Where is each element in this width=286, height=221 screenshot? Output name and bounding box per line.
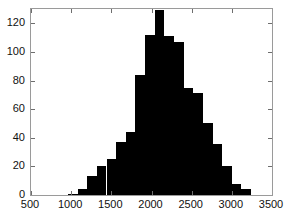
histogram-bar [87, 176, 97, 195]
histogram-bar [232, 184, 242, 195]
x-axis-tick-label: 3000 [219, 198, 243, 210]
histogram-bar [107, 159, 117, 195]
histogram-bar [164, 36, 174, 195]
y-axis-tick [268, 81, 272, 82]
x-axis-tick-label: 1000 [58, 198, 82, 210]
histogram-bar [97, 166, 107, 195]
histogram-bar [145, 35, 155, 195]
histogram-bar [78, 189, 88, 195]
histogram-bar [241, 189, 251, 195]
histogram-bar [193, 93, 203, 195]
y-axis-tick-label: 120 [7, 16, 25, 28]
histogram-bar [126, 132, 136, 195]
y-axis-tick-label: 20 [13, 159, 25, 171]
y-axis-tick [31, 23, 35, 24]
histogram-figure: 5001000150020002500300035000204060801001… [0, 0, 286, 221]
x-axis-tick-label: 2000 [138, 198, 162, 210]
x-axis-tick [111, 9, 112, 13]
y-axis-tick [268, 109, 272, 110]
y-axis-tick [268, 138, 272, 139]
histogram-bar [68, 194, 78, 195]
histogram-bar [116, 142, 126, 195]
y-axis-tick [31, 166, 35, 167]
y-axis-tick [31, 52, 35, 53]
y-axis-tick [31, 81, 35, 82]
plot-area [30, 8, 273, 196]
histogram-bar [184, 88, 194, 195]
x-axis-tick [71, 191, 72, 195]
y-axis-tick-label: 0 [19, 188, 25, 200]
y-axis-tick [268, 195, 272, 196]
x-axis-tick [192, 191, 193, 195]
y-axis-tick [31, 109, 35, 110]
x-axis-tick [31, 9, 32, 13]
histogram-bar [174, 42, 184, 195]
y-axis-tick [31, 195, 35, 196]
x-axis-tick [152, 191, 153, 195]
y-axis-tick [268, 166, 272, 167]
y-axis-tick [31, 138, 35, 139]
x-axis-tick [272, 191, 273, 195]
y-axis-tick-label: 60 [13, 102, 25, 114]
histogram-bars [31, 9, 272, 195]
x-axis-tick [71, 9, 72, 13]
histogram-bar [135, 75, 145, 195]
y-axis-tick-label: 80 [13, 74, 25, 86]
histogram-bar [222, 166, 232, 195]
x-axis-tick [272, 9, 273, 13]
y-axis-tick [268, 23, 272, 24]
x-axis-tick-label: 2500 [178, 198, 202, 210]
y-axis-tick-label: 100 [7, 45, 25, 57]
x-axis-tick [111, 191, 112, 195]
x-axis-tick-label: 3500 [259, 198, 283, 210]
y-axis-tick-label: 40 [13, 131, 25, 143]
x-axis-tick [192, 9, 193, 13]
y-axis-tick [268, 52, 272, 53]
histogram-bar [203, 123, 213, 195]
x-axis-tick [152, 9, 153, 13]
histogram-bar [213, 144, 223, 196]
x-axis-tick [232, 9, 233, 13]
x-axis-tick [232, 191, 233, 195]
histogram-bar [155, 10, 165, 195]
x-axis-tick-label: 1500 [98, 198, 122, 210]
